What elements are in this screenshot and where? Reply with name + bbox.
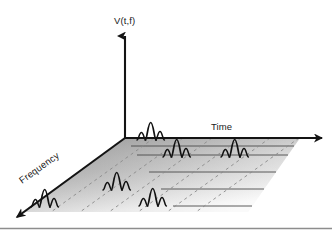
figure-canvas: V(t,f) Time Frequency (0, 0, 332, 232)
time-axis-label: Time (211, 121, 232, 132)
amplitude-axis-label: V(t,f) (114, 15, 135, 26)
plane-shading-overlay (22, 138, 300, 212)
time-frequency-plane (22, 138, 300, 212)
time-frequency-figure: V(t,f) Time Frequency (0, 0, 332, 232)
frequency-axis-label: Frequency (17, 150, 61, 186)
